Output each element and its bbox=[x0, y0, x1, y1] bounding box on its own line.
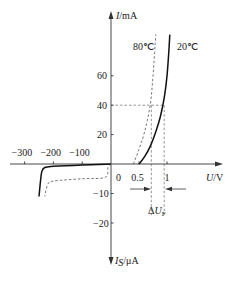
y-axis-arrow-up bbox=[109, 11, 114, 19]
x-axis-label: U/V bbox=[206, 172, 224, 183]
y-tick-label: 40 bbox=[97, 100, 107, 111]
series-label-80c: 80℃ bbox=[133, 41, 154, 52]
x-tick-label: 1 bbox=[164, 172, 169, 183]
y-axis-label-top: I/mA bbox=[115, 10, 138, 21]
x-tick-label: 0 bbox=[116, 172, 121, 183]
y-tick-label: 20 bbox=[97, 129, 107, 140]
y-axis-arrow-down bbox=[109, 257, 114, 265]
x-tick-label: −200 bbox=[40, 147, 61, 158]
series-label-20c: 20℃ bbox=[177, 41, 198, 52]
delta-arrow-right-head bbox=[165, 187, 172, 191]
delta-uf-label: ΔUF bbox=[148, 205, 166, 218]
y-tick-label: −10 bbox=[93, 188, 109, 199]
y-tick-label: −20 bbox=[93, 218, 109, 229]
x-tick-label: −300 bbox=[12, 147, 33, 158]
x-tick-label: 0.5 bbox=[131, 172, 144, 183]
diode-iv-chart: I/mA U/V IS/μA 00.51−100−200−300204060−1… bbox=[0, 0, 233, 281]
x-tick-label: −100 bbox=[69, 147, 90, 158]
delta-arrow-left-head bbox=[144, 187, 151, 191]
y-tick-label: 60 bbox=[97, 70, 107, 81]
x-axis-arrow bbox=[215, 162, 223, 167]
curve-forward-80c bbox=[133, 35, 155, 164]
y-axis-label-bottom: IS/μA bbox=[114, 255, 139, 268]
